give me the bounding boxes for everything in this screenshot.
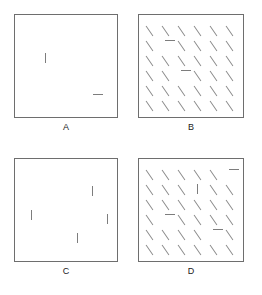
segment-vertical-3 [77,233,78,243]
segment-diagonal-r4c2 [165,70,166,82]
segment-diagonal-r4c1 [149,214,150,226]
segment-diagonal-r6c5 [213,100,214,112]
segment-diagonal-r6c2 [165,100,166,112]
panel-b-box [138,14,244,118]
segment-vertical-r2c4 [197,184,198,194]
segment-diagonal-r5c6 [229,85,230,97]
segment-diagonal-r4c3 [181,214,182,226]
segment-diagonal-r1c2 [165,25,166,37]
panel-d-label: D [138,266,244,276]
segment-diagonal-r6c4 [197,244,198,256]
segment-diagonal-r1c2 [165,169,166,181]
panel-a-box [14,14,118,118]
segment-diagonal-r4c6 [229,70,230,82]
segment-diagonal-r5c1 [149,229,150,241]
segment-horizontal-r5c5 [213,229,223,230]
segment-diagonal-r3c4 [197,199,198,211]
segment-diagonal-r6c5 [213,244,214,256]
segment-diagonal-r4c5 [213,70,214,82]
panel-a-label: A [14,122,118,132]
segment-diagonal-r1c4 [197,169,198,181]
panel-c-label: C [14,266,118,276]
segment-diagonal-r3c2 [165,199,166,211]
segment-diagonal-r5c6 [229,229,230,241]
segment-horizontal-r4c3 [181,70,191,71]
visual-search-figure: A B C D [0,0,262,295]
segment-diagonal-r6c6 [229,100,230,112]
segment-diagonal-r2c1 [149,184,150,196]
segment-horizontal-r2c2 [165,40,175,41]
segment-diagonal-r4c4 [197,214,198,226]
segment-diagonal-r3c2 [165,55,166,67]
segment-diagonal-r6c4 [197,100,198,112]
segment-diagonal-r3c6 [229,199,230,211]
segment-vertical-4 [107,214,108,224]
segment-vertical-1 [31,210,32,220]
panel-a: A [14,14,118,136]
segment-horizontal-r4c2 [165,214,175,215]
segment-diagonal-r6c6 [229,244,230,256]
segment-diagonal-r5c4 [197,229,198,241]
segment-diagonal-r2c5 [213,184,214,196]
segment-diagonal-r1c3 [181,25,182,37]
segment-diagonal-r5c3 [181,85,182,97]
panel-d-box [138,158,244,262]
segment-diagonal-r5c3 [181,229,182,241]
segment-diagonal-r6c1 [149,244,150,256]
segment-diagonal-r3c6 [229,55,230,67]
segment-diagonal-r1c1 [149,169,150,181]
segment-diagonal-r2c4 [197,40,198,52]
segment-diagonal-r1c1 [149,25,150,37]
segment-diagonal-r1c4 [197,25,198,37]
segment-diagonal-r1c6 [229,25,230,37]
segment-diagonal-r6c1 [149,100,150,112]
segment-diagonal-r2c3 [181,40,182,52]
segment-diagonal-r3c5 [213,55,214,67]
segment-diagonal-r5c5 [213,85,214,97]
segment-horizontal-r1c6 [229,169,239,170]
segment-diagonal-r4c6 [229,214,230,226]
segment-horizontal-2 [93,94,103,95]
segment-diagonal-r4c5 [213,214,214,226]
segment-diagonal-r6c3 [181,244,182,256]
segment-vertical-2 [92,186,93,196]
segment-diagonal-r3c4 [197,55,198,67]
segment-diagonal-r6c3 [181,100,182,112]
segment-diagonal-r5c4 [197,85,198,97]
segment-vertical-1 [45,53,46,63]
panel-b-label: B [138,122,244,132]
segment-diagonal-r3c1 [149,199,150,211]
segment-diagonal-r2c6 [229,40,230,52]
segment-diagonal-r3c3 [181,55,182,67]
segment-diagonal-r5c2 [165,229,166,241]
segment-diagonal-r4c4 [197,70,198,82]
segment-diagonal-r3c1 [149,55,150,67]
panel-c: C [14,158,118,280]
panel-c-box [14,158,118,262]
segment-diagonal-r1c3 [181,169,182,181]
segment-diagonal-r5c2 [165,85,166,97]
segment-diagonal-r2c5 [213,40,214,52]
segment-diagonal-r3c3 [181,199,182,211]
segment-diagonal-r2c2 [165,184,166,196]
segment-diagonal-r2c1 [149,40,150,52]
segment-diagonal-r2c3 [181,184,182,196]
segment-diagonal-r1c5 [213,169,214,181]
segment-diagonal-r4c1 [149,70,150,82]
segment-diagonal-r2c6 [229,184,230,196]
segment-diagonal-r5c1 [149,85,150,97]
panel-b: B [138,14,244,136]
segment-diagonal-r3c5 [213,199,214,211]
panel-d: D [138,158,244,280]
segment-diagonal-r1c5 [213,25,214,37]
segment-diagonal-r6c2 [165,244,166,256]
